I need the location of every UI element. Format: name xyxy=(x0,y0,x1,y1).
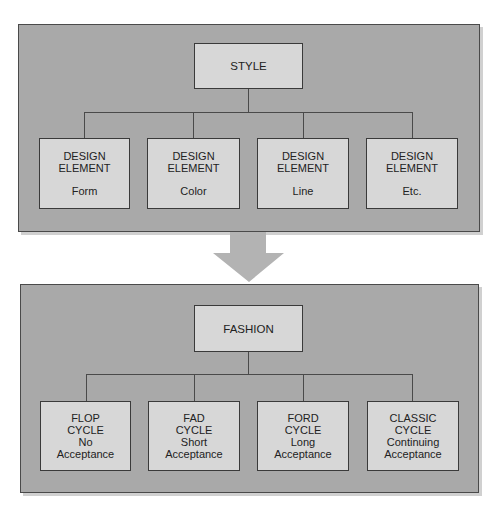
cycle-line3: Short xyxy=(181,436,207,448)
cycle-line3: No xyxy=(78,436,92,448)
flop-cycle-box: FLOP CYCLE No Acceptance xyxy=(40,401,131,471)
cycle-line1: FLOP xyxy=(71,412,100,424)
fad-cycle-box: FAD CYCLE Short Acceptance xyxy=(148,401,240,471)
ford-cycle-box: FORD CYCLE Long Acceptance xyxy=(257,401,349,471)
cycle-line4: Acceptance xyxy=(384,448,441,460)
classic-cycle-box: CLASSIC CYCLE Continuing Acceptance xyxy=(367,401,459,471)
cycle-line2: CYCLE xyxy=(176,424,213,436)
cycle-line4: Acceptance xyxy=(165,448,222,460)
cycle-line3: Continuing xyxy=(387,436,440,448)
cycle-line2: CYCLE xyxy=(285,424,322,436)
fashion-connector-1 xyxy=(86,374,87,401)
cycle-line1: FAD xyxy=(183,412,204,424)
fashion-connector-bar xyxy=(86,374,413,375)
cycle-line3: Long xyxy=(291,436,315,448)
fashion-connector-2 xyxy=(194,374,195,401)
cycle-line1: FORD xyxy=(287,412,318,424)
fashion-connector-trunk xyxy=(248,352,249,374)
fashion-connector-3 xyxy=(303,374,304,401)
cycle-line4: Acceptance xyxy=(274,448,331,460)
cycle-line1: CLASSIC xyxy=(389,412,436,424)
cycle-line4: Acceptance xyxy=(57,448,114,460)
cycle-line2: CYCLE xyxy=(395,424,432,436)
fashion-root-box: FASHION xyxy=(194,305,303,352)
fashion-root-label: FASHION xyxy=(223,323,273,335)
fashion-connector-4 xyxy=(412,374,413,401)
cycle-line2: CYCLE xyxy=(67,424,104,436)
